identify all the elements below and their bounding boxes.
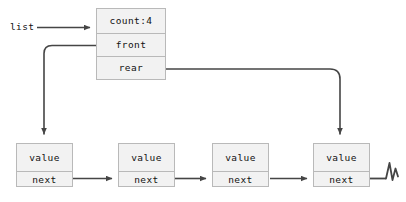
node-value-cell: value — [17, 144, 72, 171]
node-next-cell: next — [314, 171, 369, 186]
list-descriptor-box: count:4 front rear — [96, 8, 166, 80]
node-value-cell: value — [119, 144, 174, 171]
list-node: value next — [212, 143, 269, 187]
list-node: value next — [16, 143, 73, 187]
descriptor-field-front: front — [97, 33, 165, 56]
wire-rear-to-node4 — [166, 69, 340, 134]
node-next-cell: next — [17, 171, 72, 186]
list-node: value next — [313, 143, 370, 187]
descriptor-field-count: count:4 — [97, 9, 165, 33]
node-value-cell: value — [213, 144, 268, 171]
node-next-cell: next — [119, 171, 174, 186]
wire-front-to-node1 — [44, 46, 96, 135]
list-node: value next — [118, 143, 175, 187]
node-value-cell: value — [314, 144, 369, 171]
linked-list-diagram: list count:4 front rear value next value… — [0, 0, 406, 202]
node-next-cell: next — [213, 171, 268, 186]
list-variable-label: list — [10, 22, 34, 32]
descriptor-field-rear: rear — [97, 56, 165, 79]
null-terminator-icon — [386, 163, 398, 180]
